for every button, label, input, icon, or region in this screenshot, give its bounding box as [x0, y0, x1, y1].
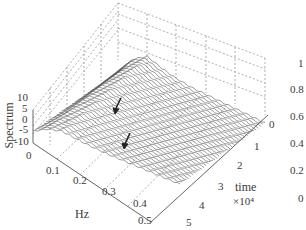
z-tick: -5	[19, 124, 28, 135]
x-tick: 0.4	[133, 198, 147, 209]
spectrum-trace	[114, 60, 261, 126]
spectrum-trace	[79, 90, 226, 150]
y-tick: 2	[237, 160, 243, 171]
colorbar-tick: 0.6	[290, 111, 304, 122]
x-tick: 0	[26, 150, 32, 161]
x-tick: 0.5	[138, 215, 152, 226]
colorbar-tick: 0	[298, 193, 304, 204]
colorbar-tick: 0.4	[290, 138, 304, 149]
y-axis-title: time	[235, 181, 256, 193]
z-axis-title: Spectrum	[2, 103, 17, 149]
x-tick: 0.1	[46, 165, 60, 176]
y-tick: 3	[218, 181, 224, 192]
colorbar-tick: 0.8	[290, 84, 304, 95]
waterfall-plot	[0, 0, 306, 230]
spectrum-trace	[48, 116, 195, 172]
y-axis-multiplier: ×10⁴	[233, 196, 254, 207]
x-tick: 0.2	[73, 175, 87, 186]
y-tick: 0	[269, 119, 275, 130]
colorbar-tick: 0.2	[290, 165, 304, 176]
spectrum-trace	[107, 66, 254, 131]
y-tick: 4	[199, 200, 205, 211]
x-tick: 0.3	[102, 186, 116, 197]
spectrum-traces	[33, 56, 265, 184]
colorbar-tick: 1	[298, 58, 304, 69]
spectrum-trace	[68, 100, 215, 160]
x-axis-title: Hz	[75, 208, 89, 220]
y-tick: 5	[186, 217, 192, 228]
y-tick: 1	[254, 141, 260, 152]
